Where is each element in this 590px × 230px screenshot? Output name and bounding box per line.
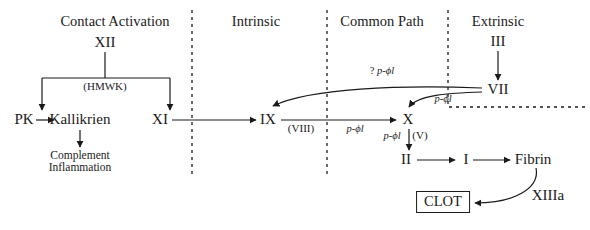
phospholipid-text-vii-to-ix: p-ϕl [377,65,394,76]
node-factor-ii: II [401,152,411,168]
node-factor-xiiia: XIIIa [532,188,564,204]
node-factor-xi: XI [152,112,168,128]
phospholipid-label-x-to-ii: p-ϕl [383,130,400,141]
cofactor-label-v: (V) [412,130,427,142]
coagulation-cascade-diagram: Contact Activation Intrinsic Common Path… [0,0,590,230]
node-factor-i: I [464,152,469,168]
node-fibrin: Fibrin [515,152,552,168]
edge-fibrin-to-clot-curve [475,168,536,203]
node-complement-inflammation: Complement Inflammation [49,149,112,173]
phospholipid-text-vii-to-x: p-ϕl [434,93,451,104]
section-title-common-path: Common Path [340,14,423,29]
phospholipid-label-vii-to-x: p-ϕl [434,93,451,104]
node-factor-x: X [403,112,414,128]
outcome-line-inflammation: Inflammation [49,161,112,173]
phospholipid-text-ix-to-x: p-ϕl [346,123,363,134]
cofactor-label-viii: (VIII) [288,123,314,135]
section-title-intrinsic: Intrinsic [232,14,280,29]
phospholipid-text-x-to-ii: p-ϕl [383,130,400,141]
node-clot-box: CLOT [416,191,470,213]
phospholipid-label-ix-to-x: p-ϕl [346,123,363,134]
node-factor-iii: III [491,34,506,50]
node-prekallikrein-pk: PK [14,112,33,128]
node-factor-vii: VII [488,82,509,98]
section-title-extrinsic: Extrinsic [472,14,524,29]
node-kallikrien: Kallikrien [50,112,111,128]
node-factor-ix: IX [260,112,276,128]
outcome-line-complement: Complement [49,149,112,161]
phospholipid-label-vii-to-ix: ? p-ϕl [370,65,394,76]
section-title-contact-activation: Contact Activation [60,14,169,29]
node-factor-xii: XII [95,35,116,51]
cofactor-label-hmwk: (HMWK) [83,81,126,93]
